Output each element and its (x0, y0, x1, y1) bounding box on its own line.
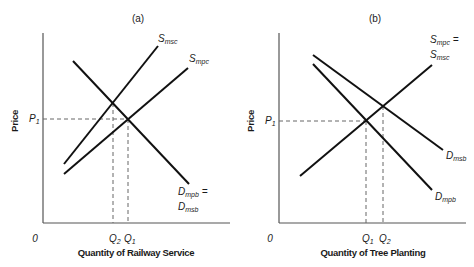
panel-b-dmsb-curve (313, 55, 443, 150)
panel-a-q1-label: Q1 (124, 233, 136, 245)
panel-b-ylabel: Price (245, 110, 256, 132)
panel-b-q1-label: Q1 (362, 233, 374, 245)
panel-b-smpc-label: Smpc = (430, 34, 459, 47)
panel-a-p1-label: P1 (29, 113, 40, 125)
panel-b-smsc-label: Smsc (430, 49, 450, 61)
panel-a: (a) Price Quantity of Railway Service 0 … (9, 13, 230, 258)
panel-b-dmpb-curve (313, 64, 432, 190)
panel-a-smpc-curve (64, 68, 188, 174)
panel-b-q2-label: Q2 (379, 233, 391, 245)
panel-b-title: (b) (369, 13, 381, 24)
panel-a-dmpb-label: Dmpb = (178, 186, 208, 199)
panel-b-dmpb-label: Dmpb (435, 191, 456, 204)
panel-a-ylabel: Price (9, 110, 20, 132)
panel-a-q2-label: Q2 (109, 233, 121, 245)
panel-b-p1-label: P1 (265, 115, 276, 127)
panel-a-title: (a) (132, 13, 144, 24)
panel-a-origin: 0 (32, 233, 38, 244)
panel-a-xlabel: Quantity of Railway Service (78, 247, 195, 258)
panel-b-dmsb-label: Dmsb (446, 150, 467, 162)
panel-b: (b) Price Quantity of Tree Planting 0 Sm… (245, 13, 467, 258)
panel-a-smsc-label: Smsc (158, 33, 178, 45)
panel-b-origin: 0 (267, 233, 273, 244)
panel-a-dmsb-label: Dmsb (178, 201, 199, 213)
externality-diagrams: (a) Price Quantity of Railway Service 0 … (0, 0, 474, 267)
panel-a-smpc-label: Smpc (189, 53, 209, 66)
panel-b-xlabel: Quantity of Tree Planting (321, 247, 426, 258)
